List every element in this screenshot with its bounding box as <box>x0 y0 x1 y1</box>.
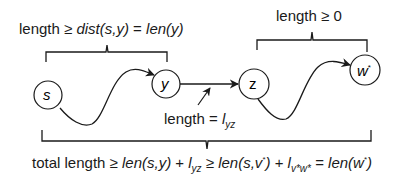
label-bottom-plus1: + <box>171 154 188 171</box>
label-bottom-l2-sub: v*w* <box>291 163 311 174</box>
label-top-left-len: len(y) <box>146 20 184 37</box>
node-s-label: s <box>43 86 51 103</box>
label-middle-prefix: length = <box>164 110 222 127</box>
label-middle-sub: yz <box>225 119 235 130</box>
brace-top-right <box>257 32 367 52</box>
label-bottom-len-sv: len(s,v <box>218 154 262 171</box>
label-bottom-l1-sub: yz <box>192 163 202 174</box>
brace-bottom <box>42 130 371 149</box>
label-top-left-eq: = <box>129 20 146 37</box>
label-top-left-prefix: length ≥ <box>19 20 76 37</box>
label-top-left: length ≥ dist(s,y) = len(y) <box>19 21 184 36</box>
label-bottom-plus2: + <box>271 154 288 171</box>
label-bottom-prefix: total length ≥ <box>32 154 122 171</box>
pointer-arrow-lyz <box>198 88 210 105</box>
label-middle-lyz: length = lyz <box>164 111 235 130</box>
label-bottom-eq: = <box>311 154 328 171</box>
label-top-right: length ≥ 0 <box>276 8 342 23</box>
label-bottom-len-w: len(w <box>328 154 364 171</box>
edge-z-to-w-star <box>258 61 350 119</box>
node-z-label: z <box>249 75 257 92</box>
label-bottom-total: total length ≥ len(s,y) + lyz ≥ len(s,v*… <box>32 155 372 174</box>
label-bottom-len-w-close: ) <box>367 154 372 171</box>
label-bottom-geq: ≥ <box>202 154 219 171</box>
label-top-left-dist: dist(s,y) <box>76 20 129 37</box>
edge-s-to-y <box>60 69 154 125</box>
brace-top-left <box>46 45 167 62</box>
label-top-right-text: length ≥ 0 <box>276 7 342 24</box>
label-bottom-len-sy: len(s,y) <box>122 154 171 171</box>
